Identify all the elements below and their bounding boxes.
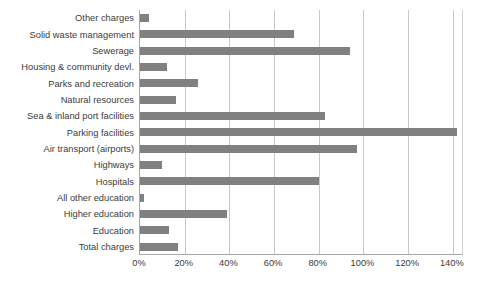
x-tick-label: 100%: [351, 258, 375, 268]
category-label: Total charges: [0, 242, 134, 252]
category-label: Education: [0, 226, 134, 236]
bar-row: [140, 59, 462, 75]
bar: [140, 79, 198, 87]
bar-row: [140, 157, 462, 173]
category-label: Sea & inland port facilities: [0, 111, 134, 121]
bar-row: [140, 108, 462, 124]
bar: [140, 161, 162, 169]
bar: [140, 63, 167, 71]
x-tick-label: 0%: [132, 258, 145, 268]
bar-row: [140, 10, 462, 26]
plot-area: [139, 10, 463, 255]
bar-row: [140, 206, 462, 222]
bar-row: [140, 173, 462, 189]
bar: [140, 47, 350, 55]
bar: [140, 128, 457, 136]
bar-row: [140, 222, 462, 238]
category-label: Parks and recreation: [0, 79, 134, 89]
category-label: Hospitals: [0, 177, 134, 187]
bar: [140, 112, 325, 120]
bar: [140, 226, 169, 234]
category-label: Natural resources: [0, 95, 134, 105]
x-tick-label: 60%: [264, 258, 283, 268]
x-tick-label: 80%: [308, 258, 327, 268]
x-tick-label: 40%: [219, 258, 238, 268]
bar-row: [140, 43, 462, 59]
category-label: Other charges: [0, 13, 134, 23]
bar-row: [140, 26, 462, 42]
x-tick-label: 120%: [395, 258, 419, 268]
x-tick-label: 140%: [440, 258, 464, 268]
bar-row: [140, 141, 462, 157]
category-axis-labels: Other chargesSolid waste managementSewer…: [0, 10, 134, 255]
category-label: All other education: [0, 193, 134, 203]
x-tick-label: 20%: [174, 258, 193, 268]
category-label: Housing & community devl.: [0, 62, 134, 72]
bar: [140, 177, 319, 185]
bar: [140, 210, 227, 218]
category-label: Higher education: [0, 209, 134, 219]
bar: [140, 145, 357, 153]
value-axis-labels: 0%20%40%60%80%100%120%140%: [0, 258, 498, 276]
category-label: Solid waste management: [0, 30, 134, 40]
bar-row: [140, 92, 462, 108]
bar: [140, 194, 144, 202]
category-label: Parking facilities: [0, 128, 134, 138]
bar: [140, 243, 178, 251]
bar: [140, 96, 176, 104]
bar-rows: [140, 10, 462, 254]
category-label: Sewerage: [0, 46, 134, 56]
bar-row: [140, 190, 462, 206]
bar: [140, 30, 294, 38]
category-label: Air transport (airports): [0, 144, 134, 154]
category-label: Highways: [0, 160, 134, 170]
bar-row: [140, 75, 462, 91]
bar-row: [140, 239, 462, 255]
bar: [140, 14, 149, 22]
bar-row: [140, 124, 462, 140]
bar-chart: Other chargesSolid waste managementSewer…: [0, 0, 498, 291]
